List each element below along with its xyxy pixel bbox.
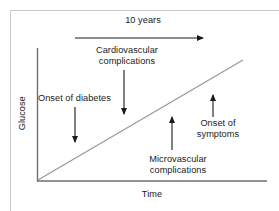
cardiovascular-label-line2: complications	[74, 56, 180, 67]
microvascular-label-line1: Microvascular	[130, 154, 226, 165]
timespan-label: 10 years	[75, 15, 211, 26]
onset-of-diabetes-label: Onset of diabetes	[38, 93, 111, 104]
glucose-time-diagram: 10 years Cardiovascular complications On…	[0, 0, 279, 211]
x-axis-label: Time	[118, 189, 186, 200]
cardiovascular-complications-label: Cardiovascular complications	[74, 45, 180, 66]
microvascular-complications-label: Microvascular complications	[130, 154, 226, 175]
y-axis-label: Glucose	[17, 83, 28, 143]
onset-symptoms-label-line1: Onset of	[186, 118, 250, 129]
cardiovascular-label-line1: Cardiovascular	[74, 45, 180, 56]
plot-graphics	[0, 0, 279, 211]
onset-symptoms-label-line2: symptoms	[186, 129, 250, 140]
microvascular-label-line2: complications	[130, 165, 226, 176]
onset-of-symptoms-label: Onset of symptoms	[186, 118, 250, 139]
